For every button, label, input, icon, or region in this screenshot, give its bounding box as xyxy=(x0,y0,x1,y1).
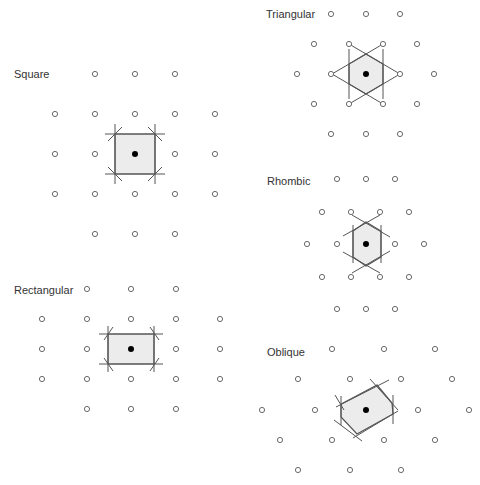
triangular-lattice-point xyxy=(414,41,419,46)
square-lattice-point xyxy=(212,111,217,116)
triangular-lattice-point xyxy=(363,11,368,16)
oblique-lattice-point xyxy=(329,346,334,351)
oblique-lattice-point xyxy=(466,407,471,412)
rhombic-lattice-point xyxy=(406,209,411,214)
rhombic-lattice-point xyxy=(334,306,339,311)
rhombic-lattice-point xyxy=(421,241,426,246)
oblique-lattice-point xyxy=(432,437,437,442)
oblique-lattice-point xyxy=(381,437,386,442)
triangular-lattice-point xyxy=(431,71,436,76)
triangular-lattice-point xyxy=(328,11,333,16)
rectangular-lattice-point xyxy=(173,286,178,291)
oblique-lattice-point xyxy=(312,407,317,412)
square-lattice-point xyxy=(132,191,137,196)
rectangular-lattice-point xyxy=(84,406,89,411)
square-lattice-point xyxy=(132,71,137,76)
square-lattice-point xyxy=(52,111,57,116)
rhombic-lattice-point xyxy=(304,241,309,246)
oblique-lattice-point xyxy=(398,376,403,381)
square-lattice-point xyxy=(52,151,57,156)
triangular-lattice-point xyxy=(328,131,333,136)
rhombic-lattice-point xyxy=(392,176,397,181)
rhombic-lattice-point xyxy=(348,274,353,279)
rhombic-lattice-point xyxy=(377,209,382,214)
square-lattice-point xyxy=(172,151,177,156)
lattice-diagram-canvas xyxy=(0,0,480,485)
rectangular-lattice-point xyxy=(217,376,222,381)
oblique-lattice-point xyxy=(432,346,437,351)
rhombic-center-point xyxy=(363,241,369,247)
square-lattice-point xyxy=(92,151,97,156)
oblique-center-point xyxy=(363,407,369,413)
rectangular-center-point xyxy=(128,346,134,352)
rectangular-lattice-point xyxy=(128,316,133,321)
rhombic-lattice-point xyxy=(392,241,397,246)
rectangular-lattice-point xyxy=(84,346,89,351)
rectangular-lattice-point xyxy=(128,286,133,291)
square-lattice-point xyxy=(92,71,97,76)
oblique-label: Oblique xyxy=(267,347,305,358)
triangular-label: Triangular xyxy=(266,9,315,20)
rectangular-lattice-point xyxy=(173,346,178,351)
triangular-lattice-point xyxy=(311,101,316,106)
rectangular-lattice-point xyxy=(39,376,44,381)
square-lattice-point xyxy=(92,191,97,196)
rectangular-lattice-point xyxy=(173,376,178,381)
rhombic-lattice-point xyxy=(363,176,368,181)
triangular-lattice-point xyxy=(414,101,419,106)
oblique-lattice-point xyxy=(398,467,403,472)
triangular-lattice-point xyxy=(397,71,402,76)
triangular-lattice-point xyxy=(380,101,385,106)
triangular-lattice-point xyxy=(311,41,316,46)
rhombic-lattice-point xyxy=(334,241,339,246)
triangular-lattice-point xyxy=(397,131,402,136)
rectangular-lattice-point xyxy=(39,316,44,321)
rectangular-label: Rectangular xyxy=(14,285,73,296)
square-lattice-panel xyxy=(52,71,217,236)
rhombic-label: Rhombic xyxy=(267,176,310,187)
rectangular-lattice-point xyxy=(84,316,89,321)
square-lattice-point xyxy=(172,71,177,76)
oblique-lattice-point xyxy=(347,467,352,472)
oblique-lattice-point xyxy=(329,437,334,442)
square-center-point xyxy=(132,151,138,157)
square-lattice-point xyxy=(92,111,97,116)
square-lattice-point xyxy=(212,151,217,156)
square-lattice-point xyxy=(52,191,57,196)
triangular-lattice-point xyxy=(328,71,333,76)
triangular-lattice-point xyxy=(294,71,299,76)
triangular-lattice-point xyxy=(346,41,351,46)
oblique-lattice-point xyxy=(347,376,352,381)
rhombic-lattice-point xyxy=(319,209,324,214)
rhombic-lattice-point xyxy=(334,176,339,181)
rectangular-lattice-point xyxy=(39,346,44,351)
oblique-lattice-point xyxy=(295,467,300,472)
triangular-center-point xyxy=(363,71,369,77)
square-lattice-point xyxy=(212,191,217,196)
triangular-lattice-panel xyxy=(294,11,436,136)
triangular-lattice-point xyxy=(397,11,402,16)
oblique-lattice-point xyxy=(277,437,282,442)
rectangular-lattice-point xyxy=(173,316,178,321)
oblique-lattice-point xyxy=(295,376,300,381)
rectangular-lattice-point xyxy=(128,376,133,381)
rectangular-lattice-point xyxy=(84,376,89,381)
oblique-lattice-point xyxy=(381,346,386,351)
oblique-lattice-point xyxy=(449,376,454,381)
square-lattice-point xyxy=(132,111,137,116)
rhombic-lattice-point xyxy=(406,274,411,279)
rhombic-lattice-point xyxy=(377,274,382,279)
rectangular-lattice-point xyxy=(217,316,222,321)
rectangular-lattice-point xyxy=(128,406,133,411)
rectangular-lattice-point xyxy=(217,346,222,351)
square-lattice-point xyxy=(92,231,97,236)
oblique-lattice-panel xyxy=(259,346,471,472)
oblique-lattice-point xyxy=(415,407,420,412)
square-lattice-point xyxy=(172,111,177,116)
square-lattice-point xyxy=(172,231,177,236)
square-lattice-point xyxy=(132,231,137,236)
square-label: Square xyxy=(14,69,49,80)
square-lattice-point xyxy=(172,191,177,196)
triangular-lattice-point xyxy=(346,101,351,106)
rhombic-lattice-point xyxy=(348,209,353,214)
